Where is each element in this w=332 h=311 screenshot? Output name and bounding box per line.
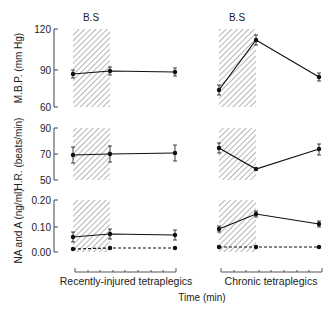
- y-axes: [54, 29, 58, 252]
- figure: B.S B.S 120 90 60 90 70 50 0.20 0.10 0.0…: [0, 0, 332, 311]
- y-tick-labels: 120 90 60 90 70 50 0.20 0.10 0.00: [32, 24, 52, 258]
- group-label-recent: Recently-injured tetraplegics: [60, 275, 192, 287]
- svg-text:0.20: 0.20: [32, 195, 52, 206]
- svg-text:70: 70: [40, 149, 52, 160]
- bs-shading: [73, 29, 256, 252]
- svg-text:0.00: 0.00: [32, 247, 52, 258]
- svg-text:90: 90: [40, 123, 52, 134]
- svg-text:0.10: 0.10: [32, 222, 52, 233]
- svg-text:60: 60: [40, 102, 52, 113]
- hr-ylabel: H.R. (beats/min): [13, 118, 24, 191]
- na-ylabel: NA and A (ng/ml): [13, 188, 24, 263]
- x-axis-label: Time (min): [178, 292, 225, 303]
- x-axis-ticks: [75, 268, 322, 272]
- bs-label-left: B.S: [83, 12, 99, 23]
- bs-label-right: B.S: [229, 12, 245, 23]
- group-label-chronic: Chronic tetraplegics: [225, 275, 318, 287]
- mbp-ylabel: M.B.P. (mm Hg): [13, 33, 24, 103]
- svg-text:120: 120: [34, 24, 51, 35]
- svg-text:90: 90: [40, 65, 52, 76]
- svg-text:50: 50: [40, 175, 52, 186]
